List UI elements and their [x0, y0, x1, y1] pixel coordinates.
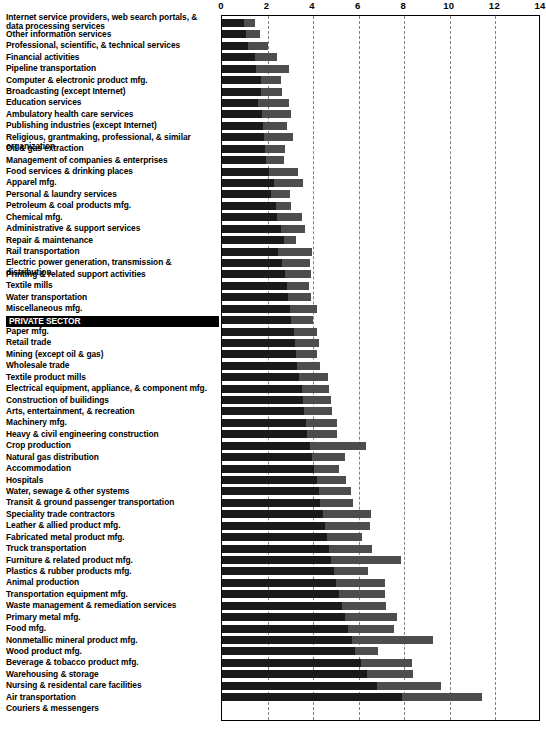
chart-bar	[222, 339, 319, 347]
bar-segment-dark	[222, 19, 244, 27]
chart-bar	[222, 659, 412, 667]
bar-segment-light	[261, 88, 283, 96]
chart-bar	[222, 76, 281, 84]
chart-bar	[222, 453, 345, 461]
bar-segment-light	[306, 419, 337, 427]
bar-segment-light	[278, 248, 312, 256]
chart-bar	[222, 670, 413, 678]
bar-segment-light	[271, 190, 290, 198]
chart-row-label: Broadcasting (except Internet)	[6, 87, 219, 96]
chart-row-label: Repair & maintenance	[6, 236, 219, 245]
bar-segment-light	[261, 76, 282, 84]
chart-bar	[222, 430, 337, 438]
bar-segment-dark	[222, 76, 261, 84]
chart-bar	[222, 545, 372, 553]
chart-bar	[222, 647, 378, 655]
chart-row-label: Couriers & messengers	[6, 704, 219, 713]
bar-segment-light	[345, 613, 397, 621]
chart-row-label: Computer & electronic product mfg.	[6, 76, 219, 85]
axis-tick-label-12: 12	[489, 0, 500, 11]
chart-row: Crop production	[0, 441, 546, 452]
bar-segment-light	[295, 339, 319, 347]
chart-bar	[222, 693, 482, 701]
chart-row: Arts, entertainment, & recreation	[0, 406, 546, 417]
bar-segment-dark	[222, 465, 314, 473]
chart-row-label: Financial activities	[6, 53, 219, 62]
chart-row: Repair & maintenance	[0, 235, 546, 246]
bar-segment-dark	[222, 339, 295, 347]
chart-bar	[222, 419, 337, 427]
chart-row-label: Heavy & civil engineering construction	[6, 430, 219, 439]
chart-bar	[222, 407, 333, 415]
bar-segment-dark	[222, 225, 281, 233]
bar-segment-light	[299, 373, 327, 381]
bar-segment-dark	[222, 293, 288, 301]
bar-segment-dark	[222, 545, 329, 553]
chart-bar	[222, 350, 317, 358]
chart-row-label: Food mfg.	[6, 624, 219, 633]
chart-bar	[222, 465, 339, 473]
chart-bar	[222, 88, 282, 96]
bar-segment-dark	[222, 659, 361, 667]
chart-row: Hospitals	[0, 475, 546, 486]
bar-segment-dark	[222, 625, 348, 633]
chart-row: Water, sewage & other systems	[0, 486, 546, 497]
chart-row: Air transportation	[0, 692, 546, 703]
bar-segment-light	[402, 693, 482, 701]
bar-segment-light	[296, 350, 317, 358]
bar-segment-light	[377, 682, 441, 690]
chart-bar	[222, 270, 311, 278]
chart-bar	[222, 396, 331, 404]
axis-tick-label-2: 2	[264, 0, 270, 11]
chart-row: Printing & related support activities	[0, 269, 546, 280]
chart-row-label: Nursing & residental care facilities	[6, 681, 219, 690]
chart-row: Rail transportation	[0, 247, 546, 258]
chart-row: Textile product mills	[0, 372, 546, 383]
chart-bar	[222, 522, 370, 530]
chart-row: Nursing & residental care facilities	[0, 681, 546, 692]
chart-row-label: Furniture & related product mfg.	[6, 556, 219, 565]
chart-bar	[222, 122, 287, 130]
chart-bar	[222, 19, 255, 27]
chart-row-label: Petroleum & coal products mfg.	[6, 201, 219, 210]
bar-segment-light	[320, 499, 353, 507]
bar-segment-light	[352, 636, 433, 644]
bar-segment-dark	[222, 362, 297, 370]
bar-segment-light	[303, 396, 331, 404]
chart-bar	[222, 248, 312, 256]
chart-bar	[222, 99, 289, 107]
chart-row-label: Professional, scientific, & technical se…	[6, 41, 219, 50]
bar-segment-dark	[222, 282, 287, 290]
chart-bar	[222, 316, 313, 324]
bar-segment-light	[294, 328, 317, 336]
bar-segment-light	[244, 19, 255, 27]
bar-segment-light	[297, 362, 320, 370]
chart-row-label: Electrical equipment, appliance, & compo…	[6, 384, 219, 393]
chart-row: Water transportation	[0, 292, 546, 303]
chart-row: Administrative & support services	[0, 224, 546, 235]
chart-row-label: Hospitals	[6, 476, 219, 485]
bar-segment-light	[329, 545, 372, 553]
chart-row-label: Miscellaneous mfg.	[6, 304, 219, 313]
chart-row: Transportation equipment mfg.	[0, 589, 546, 600]
bar-segment-dark	[222, 259, 282, 267]
chart-bar	[222, 533, 362, 541]
bar-segment-dark	[222, 350, 296, 358]
chart-bar	[222, 30, 260, 38]
chart-row: Electric power generation, transmission …	[0, 258, 546, 269]
chart-row-label: Construction of builidings	[6, 396, 219, 405]
chart-row-label: Crop production	[6, 441, 219, 450]
chart-bar	[222, 282, 309, 290]
chart-row: Accommodation	[0, 464, 546, 475]
chart-row: Primary metal mfg.	[0, 612, 546, 623]
bar-segment-dark	[222, 270, 285, 278]
chart-bar	[222, 145, 285, 153]
chart-row-label: Water transportation	[6, 293, 219, 302]
chart-row-label: Truck transportation	[6, 544, 219, 553]
bar-segment-dark	[222, 670, 367, 678]
bar-segment-dark	[222, 499, 320, 507]
bar-segment-light	[319, 487, 351, 495]
chart-row-label: Oil & gas extraction	[6, 144, 219, 153]
chart-bar	[222, 110, 291, 118]
chart-bar	[222, 225, 305, 233]
